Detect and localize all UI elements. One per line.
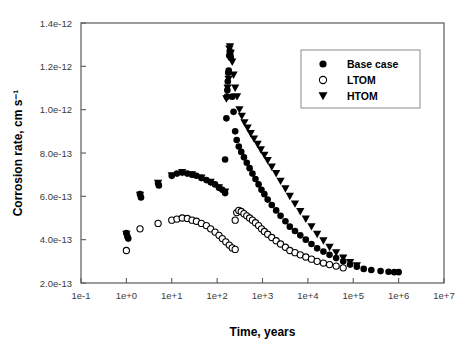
x-tick-label: 1e+0 xyxy=(116,290,137,301)
data-point xyxy=(360,266,367,273)
data-point xyxy=(223,115,230,122)
data-point xyxy=(319,76,326,83)
x-tick-label: 1e+6 xyxy=(388,290,409,301)
data-point xyxy=(368,267,375,274)
data-point xyxy=(233,137,240,144)
x-axis-title: Time, years xyxy=(230,325,296,339)
x-tick-label: 1e+4 xyxy=(297,290,318,301)
data-point xyxy=(320,248,327,255)
data-point xyxy=(297,232,304,239)
data-point xyxy=(273,207,280,214)
data-point xyxy=(325,244,333,251)
x-tick-label: 1e+2 xyxy=(206,290,227,301)
data-point xyxy=(302,236,309,243)
data-point xyxy=(272,170,280,177)
y-tick-label: 1.4e-12 xyxy=(40,18,72,29)
data-point xyxy=(268,202,275,209)
y-tick-label: 4.0e-13 xyxy=(40,234,72,245)
data-point xyxy=(340,265,346,271)
data-point xyxy=(281,185,289,192)
data-point xyxy=(277,213,284,220)
data-point xyxy=(232,246,238,252)
data-point xyxy=(308,241,315,248)
data-point xyxy=(314,245,321,252)
data-point xyxy=(302,216,310,223)
corrosion-rate-chart: 1e-11e+01e+11e+21e+31e+41e+51e+61e+72.0e… xyxy=(0,0,469,349)
data-point xyxy=(286,193,294,200)
x-tick-label: 1e+5 xyxy=(343,290,364,301)
x-tick-label: 1e+1 xyxy=(161,290,182,301)
data-point xyxy=(319,237,327,244)
data-point xyxy=(333,263,339,269)
data-point xyxy=(123,247,129,253)
x-tick-label: 1e+7 xyxy=(433,290,454,301)
data-point xyxy=(332,249,340,256)
legend: Base caseLTOMHTOM xyxy=(301,50,420,108)
data-point xyxy=(287,223,294,230)
data-point xyxy=(292,228,299,235)
y-axis-title: Corrosion rate, cm s⁻¹ xyxy=(11,90,25,217)
data-point xyxy=(232,217,238,223)
data-point xyxy=(326,252,333,259)
data-point xyxy=(314,258,320,264)
data-point xyxy=(377,268,384,275)
data-point xyxy=(296,208,304,215)
y-tick-label: 1.0e-12 xyxy=(40,104,72,115)
series-ltom xyxy=(123,207,346,271)
data-point xyxy=(228,58,236,65)
data-point xyxy=(313,231,321,238)
y-tick-label: 1.2e-12 xyxy=(40,61,72,72)
data-point xyxy=(307,223,315,230)
data-point xyxy=(291,200,299,207)
data-point xyxy=(238,113,246,120)
data-point xyxy=(282,218,289,225)
data-point xyxy=(137,226,143,232)
data-point xyxy=(395,269,402,276)
data-point xyxy=(326,261,332,267)
data-point xyxy=(155,220,161,226)
y-tick-label: 8.0e-13 xyxy=(40,148,72,159)
data-point xyxy=(385,268,392,275)
data-point xyxy=(231,84,239,91)
legend-label: Base case xyxy=(347,58,399,70)
data-point xyxy=(264,196,271,203)
legend-label: HTOM xyxy=(347,90,378,102)
y-tick-label: 2.0e-13 xyxy=(40,278,72,289)
data-point xyxy=(222,156,229,163)
y-tick-label: 6.0e-13 xyxy=(40,191,72,202)
legend-label: LTOM xyxy=(347,74,376,86)
data-point xyxy=(268,164,276,171)
data-point xyxy=(232,128,239,135)
data-point xyxy=(320,260,326,266)
x-tick-label: 1e+3 xyxy=(252,290,273,301)
data-point xyxy=(319,60,326,67)
data-point xyxy=(230,109,237,116)
chart-svg: 1e-11e+01e+11e+21e+31e+41e+51e+61e+72.0e… xyxy=(0,0,469,349)
data-point xyxy=(264,157,272,164)
data-point xyxy=(276,178,284,185)
x-tick-label: 1e-1 xyxy=(71,290,90,301)
